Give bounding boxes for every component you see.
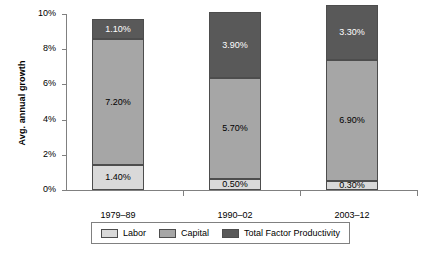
bar-segment-labor-0[interactable]: 1.40%	[92, 165, 144, 190]
y-tick-4: 8%	[62, 49, 67, 50]
legend-swatch-tfp-icon	[222, 229, 239, 238]
y-tick-5: 10%	[62, 14, 67, 15]
y-tick-label-4: 8%	[43, 43, 56, 53]
x-category-label-2: 2003–12	[326, 210, 378, 220]
bar-segment-labor-1[interactable]: 0.50%	[209, 179, 261, 191]
y-tick-label-5: 10%	[38, 8, 56, 18]
x-tick-2	[417, 191, 418, 196]
bar-segment-tfp-1[interactable]: 3.90%	[209, 12, 261, 78]
bar-segment-capital-1[interactable]: 5.70%	[209, 78, 261, 178]
legend: Labor Capital Total Factor Productivity	[91, 222, 350, 244]
bar-label-tfp-1: 3.90%	[222, 41, 248, 50]
legend-label-labor: Labor	[123, 228, 146, 238]
bar-segment-labor-2[interactable]: 0.30%	[326, 181, 378, 190]
bar-segment-tfp-2[interactable]: 3.30%	[326, 5, 378, 60]
y-tick-label-0: 0%	[43, 184, 56, 194]
bar-label-capital-2: 6.90%	[339, 116, 365, 125]
bar-label-tfp-2: 3.30%	[339, 28, 365, 37]
x-tick-1	[300, 191, 301, 196]
bar-group-1[interactable]: 0.50% 5.70% 3.90%	[209, 12, 261, 190]
legend-item-tfp[interactable]: Total Factor Productivity	[222, 228, 340, 238]
bar-label-labor-0: 1.40%	[105, 173, 131, 182]
y-tick-label-3: 6%	[43, 78, 56, 88]
plot-area: 0% 2% 4% 6% 8% 10% 1.40% 7.20%	[66, 14, 418, 190]
x-tick-0	[183, 191, 184, 196]
y-axis-line	[66, 14, 67, 191]
x-category-label-1: 1990–02	[209, 210, 261, 220]
bar-segment-capital-0[interactable]: 7.20%	[92, 39, 144, 166]
bar-label-capital-1: 5.70%	[222, 124, 248, 133]
y-tick-0: 0%	[62, 190, 67, 191]
bar-label-labor-2: 0.30%	[339, 181, 365, 190]
legend-label-capital: Capital	[181, 228, 209, 238]
bar-label-capital-0: 7.20%	[105, 98, 131, 107]
legend-swatch-labor-icon	[101, 229, 118, 238]
y-tick-label-1: 2%	[43, 149, 56, 159]
legend-item-capital[interactable]: Capital	[159, 228, 209, 238]
y-tick-2: 4%	[62, 120, 67, 121]
y-tick-label-2: 4%	[43, 114, 56, 124]
bar-group-2[interactable]: 0.30% 6.90% 3.30%	[326, 5, 378, 190]
stacked-bar-chart: Avg. annual growth 0% 2% 4% 6% 8% 10%	[0, 0, 431, 254]
bar-label-labor-1: 0.50%	[222, 180, 248, 189]
bar-group-0[interactable]: 1.40% 7.20% 1.10%	[92, 19, 144, 190]
legend-item-labor[interactable]: Labor	[101, 228, 146, 238]
legend-swatch-capital-icon	[159, 229, 176, 238]
bar-label-tfp-0: 1.10%	[105, 25, 131, 34]
x-category-label-0: 1979–89	[92, 210, 144, 220]
legend-label-tfp: Total Factor Productivity	[244, 228, 340, 238]
y-tick-1: 2%	[62, 155, 67, 156]
x-axis-line	[66, 190, 418, 191]
bar-segment-capital-2[interactable]: 6.90%	[326, 60, 378, 180]
y-tick-3: 6%	[62, 84, 67, 85]
y-axis-title: Avg. annual growth	[17, 33, 27, 173]
bar-segment-tfp-0[interactable]: 1.10%	[92, 19, 144, 38]
